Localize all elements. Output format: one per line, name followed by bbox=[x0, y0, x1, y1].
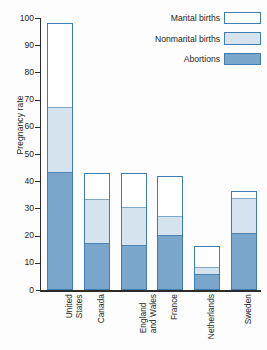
x-axis-label-line: Canada bbox=[96, 294, 106, 323]
x-axis-tick-label: Englandand Wales bbox=[139, 294, 158, 333]
x-axis-label-line: England bbox=[138, 303, 148, 334]
x-axis-tick-label: Netherlands bbox=[207, 294, 217, 339]
bar-segment-abortions bbox=[195, 274, 219, 289]
y-axis-tick-label: 50 bbox=[25, 149, 34, 160]
x-axis-tick-label: Canada bbox=[97, 294, 107, 323]
y-axis-tick-label: 30 bbox=[25, 203, 34, 214]
bar-segment-abortions bbox=[232, 233, 256, 289]
x-axis-line bbox=[40, 290, 261, 292]
legend-item-abortions: Abortions bbox=[148, 50, 261, 68]
y-axis-tick-label: 20 bbox=[25, 230, 34, 241]
y-axis-tick-label: 90 bbox=[25, 40, 34, 51]
chart-legend: Marital births Nonmarital births Abortio… bbox=[148, 9, 261, 71]
y-axis-tick-label: 70 bbox=[25, 94, 34, 105]
legend-label: Marital births bbox=[171, 13, 220, 23]
stacked-bar bbox=[194, 246, 220, 290]
bar-segment-abortions bbox=[48, 172, 72, 289]
y-axis-tick-container: 1009080706050403020100 bbox=[0, 0, 42, 350]
pregnancy-rate-stacked-bar-chart: Pregnancy rate 1009080706050403020100 Un… bbox=[0, 0, 267, 350]
x-axis-tick-label: UnitedStates bbox=[65, 294, 84, 318]
x-axis-label-line: and Wales bbox=[148, 294, 158, 333]
legend-swatch-marital-births-icon bbox=[224, 12, 261, 25]
y-axis-tick-label: 0 bbox=[29, 285, 34, 296]
stacked-bar bbox=[231, 191, 257, 290]
y-axis-tick-label: 60 bbox=[25, 121, 34, 132]
x-axis-tick-label: Sweden bbox=[244, 294, 254, 324]
y-axis-tick-label: 100 bbox=[20, 13, 34, 24]
x-axis-label-line: States bbox=[75, 294, 85, 318]
y-axis-tick-label: 40 bbox=[25, 176, 34, 187]
stacked-bar bbox=[157, 176, 183, 290]
x-axis-label-line: France bbox=[169, 294, 179, 320]
x-axis-label-line: Netherlands bbox=[206, 294, 216, 339]
legend-label: Abortions bbox=[184, 54, 220, 64]
legend-swatch-nonmarital-births-icon bbox=[224, 32, 261, 45]
x-axis-label-container: UnitedStatesCanadaEnglandand WalesFrance… bbox=[41, 294, 261, 350]
stacked-bar bbox=[84, 173, 110, 290]
x-axis-tick-label: France bbox=[170, 294, 180, 320]
legend-swatch-abortions-icon bbox=[224, 53, 261, 66]
y-axis-tick-label: 80 bbox=[25, 67, 34, 78]
x-axis-label-line: Sweden bbox=[243, 294, 253, 324]
x-axis-label-line: United bbox=[64, 294, 74, 318]
legend-item-marital-births: Marital births bbox=[148, 9, 261, 27]
stacked-bar bbox=[121, 173, 147, 290]
stacked-bar bbox=[47, 23, 73, 290]
y-axis-tick-label: 10 bbox=[25, 257, 34, 268]
bar-segment-abortions bbox=[122, 245, 146, 289]
bar-segment-abortions bbox=[158, 235, 182, 289]
legend-label: Nonmarital births bbox=[155, 34, 220, 44]
legend-item-nonmarital-births: Nonmarital births bbox=[148, 30, 261, 48]
bar-segment-abortions bbox=[85, 243, 109, 289]
